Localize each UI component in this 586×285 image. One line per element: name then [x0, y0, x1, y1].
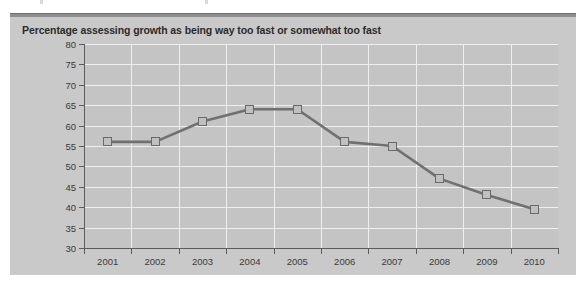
- x-tick-mark: [226, 249, 227, 254]
- y-tick-label: 45: [65, 181, 76, 192]
- x-tick-mark: [368, 249, 369, 254]
- y-tick-label: 60: [65, 120, 76, 131]
- x-tick-mark: [84, 249, 85, 254]
- chart-figure: Percentage assessing growth as being way…: [0, 0, 586, 285]
- x-tick-mark: [274, 249, 275, 254]
- data-point-marker: [245, 105, 254, 114]
- data-point-marker: [151, 137, 160, 146]
- data-point-marker: [435, 174, 444, 183]
- y-tick-label: 65: [65, 100, 76, 111]
- x-tick-mark: [558, 249, 559, 254]
- data-point-marker: [388, 142, 397, 151]
- x-tick-mark: [511, 249, 512, 254]
- y-tick-label: 50: [65, 161, 76, 172]
- data-point-marker: [293, 105, 302, 114]
- data-point-marker: [530, 205, 539, 214]
- x-tick-label: 2009: [476, 256, 497, 267]
- data-point-marker: [103, 137, 112, 146]
- x-tick-mark: [416, 249, 417, 254]
- y-tick-label: 30: [65, 243, 76, 254]
- series-polyline: [108, 109, 535, 209]
- data-point-marker: [340, 137, 349, 146]
- y-tick-label: 40: [65, 202, 76, 213]
- x-tick-label: 2007: [382, 256, 403, 267]
- y-tick-label: 75: [65, 59, 76, 70]
- x-tick-label: 2002: [145, 256, 166, 267]
- x-tick-mark: [179, 249, 180, 254]
- scan-edge-artifact: [0, 0, 586, 12]
- x-tick-label: 2006: [334, 256, 355, 267]
- y-tick-label: 70: [65, 79, 76, 90]
- x-tick-label: 2008: [429, 256, 450, 267]
- x-tick-mark: [463, 249, 464, 254]
- x-tick-mark: [321, 249, 322, 254]
- y-tick-label: 55: [65, 141, 76, 152]
- x-tick-label: 2001: [97, 256, 118, 267]
- x-tick-label: 2010: [524, 256, 545, 267]
- y-tick-label: 80: [65, 39, 76, 50]
- x-tick-label: 2005: [287, 256, 308, 267]
- y-tick-label: 35: [65, 222, 76, 233]
- x-tick-label: 2004: [239, 256, 260, 267]
- chart-title: Percentage assessing growth as being way…: [22, 24, 381, 36]
- data-point-marker: [482, 190, 491, 199]
- x-tick-label: 2003: [192, 256, 213, 267]
- data-point-marker: [198, 117, 207, 126]
- x-tick-mark: [131, 249, 132, 254]
